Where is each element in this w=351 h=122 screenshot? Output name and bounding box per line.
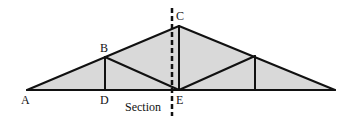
label-D: D	[100, 93, 109, 107]
label-A: A	[21, 93, 30, 107]
label-section: Section	[125, 100, 161, 114]
label-E: E	[176, 93, 183, 107]
truss-diagram: A B C D E Section	[0, 0, 351, 122]
truss-fill	[27, 26, 335, 90]
label-C: C	[176, 9, 184, 23]
label-B: B	[100, 41, 108, 55]
